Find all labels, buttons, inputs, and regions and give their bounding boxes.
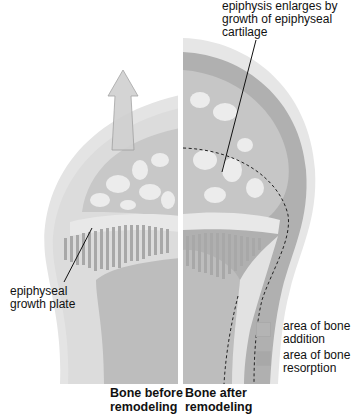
diaphysis	[96, 258, 180, 384]
caption-line: Bone after	[185, 386, 252, 400]
caption-line: Bone before	[110, 386, 183, 400]
label-epiphyseal-growth-plate: epiphyseal growth plate	[10, 285, 100, 311]
label-epiphysis-enlarges: epiphysis enlarges by growth of epiphyse…	[222, 0, 352, 39]
caption-bone-after: Bone after remodeling	[185, 386, 252, 414]
label-line: growth plate	[10, 298, 100, 311]
growth-arrow	[108, 70, 138, 150]
legend-label: resorption	[283, 362, 352, 375]
legend-item-resorption: area of bone resorption	[256, 349, 352, 375]
legend-label: addition	[283, 333, 352, 346]
bone-before-remodeling	[44, 70, 180, 384]
legend-swatch-resorption	[256, 351, 271, 366]
caption-line: remodeling	[110, 400, 183, 414]
caption-line: remodeling	[185, 400, 252, 414]
caption-bone-before: Bone before remodeling	[110, 386, 183, 414]
label-line: cartilage	[222, 26, 352, 39]
legend-item-addition: area of bone addition	[256, 320, 352, 346]
legend-swatch-addition	[256, 322, 271, 337]
